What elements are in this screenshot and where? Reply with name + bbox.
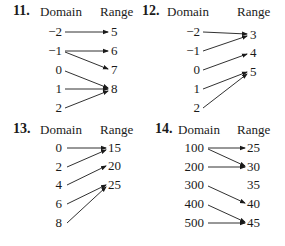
mapping-panel-14: 14. Domain Range 100 200 300 400 500 25 … xyxy=(142,121,284,239)
mapping-panel-11: 11. Domain Range −2 −1 0 1 2 5 6 7 8 xyxy=(0,3,142,121)
mapping-panel-12: 12. Domain Range −2 −1 0 1 2 3 4 5 xyxy=(142,3,284,121)
mapping-arrows xyxy=(142,121,284,239)
mapping-panel-13: 13. Domain Range 0 2 4 6 8 15 20 25 xyxy=(0,121,142,239)
mapping-arrows xyxy=(0,3,142,121)
mapping-arrows xyxy=(142,3,284,121)
mapping-arrows xyxy=(0,121,142,239)
